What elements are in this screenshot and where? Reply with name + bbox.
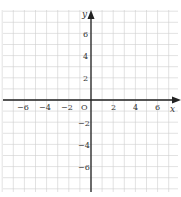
coordinate-plane: y x O −6 −4 −2 2 4 6 6 4 2 −2 −4 −6 <box>0 0 181 197</box>
x-tick-label: 6 <box>155 103 160 112</box>
grid <box>2 10 178 192</box>
x-tick-label: 4 <box>133 103 138 112</box>
x-tick-label: −4 <box>39 103 51 112</box>
x-axis-label: x <box>170 104 175 114</box>
y-tick-label: −6 <box>78 163 90 172</box>
y-axis-label: y <box>81 9 88 19</box>
y-tick-label: 6 <box>83 30 88 39</box>
x-tick-label: −2 <box>61 103 73 112</box>
x-tick-label: −6 <box>17 103 29 112</box>
y-tick-label: −4 <box>78 141 90 150</box>
x-tick-label: 2 <box>111 103 116 112</box>
origin-label: O <box>81 103 88 112</box>
y-tick-label: 4 <box>83 52 88 61</box>
x-axis-arrow-icon <box>172 97 181 104</box>
y-tick-label: −2 <box>78 119 90 128</box>
y-tick-label: 2 <box>83 74 88 83</box>
